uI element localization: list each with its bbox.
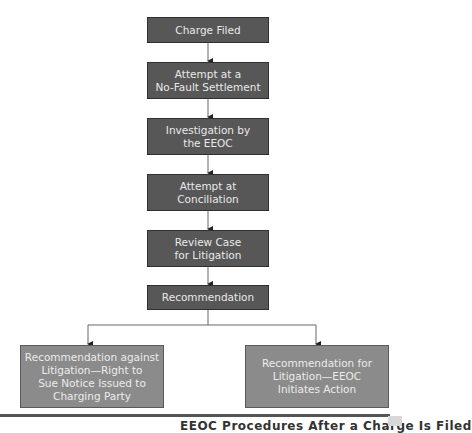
page-corner-shade (388, 416, 402, 426)
step-label: Attempt at Conciliation (177, 180, 238, 206)
step-label: Attempt at a No-Fault Settlement (156, 68, 261, 94)
step-conciliation: Attempt at Conciliation (147, 174, 269, 211)
step-no-fault-settlement: Attempt at a No-Fault Settlement (147, 62, 269, 99)
outcome-label: Recommendation against Litigation—Right … (25, 351, 159, 403)
step-charge-filed: Charge Filed (147, 17, 269, 43)
outcome-label: Recommendation for Litigation—EEOC Initi… (262, 357, 372, 396)
step-label: Charge Filed (175, 24, 240, 37)
step-recommendation: Recommendation (147, 285, 269, 310)
step-label: Review Case for Litigation (175, 236, 242, 262)
step-label: Recommendation (162, 291, 254, 304)
step-review-case: Review Case for Litigation (147, 230, 269, 267)
figure-caption: EEOC Procedures After a Charge Is Filed (180, 419, 472, 433)
step-label: Investigation by the EEOC (166, 124, 250, 150)
outcome-against-litigation: Recommendation against Litigation—Right … (20, 345, 164, 408)
outcome-for-litigation: Recommendation for Litigation—EEOC Initi… (245, 345, 389, 408)
step-investigation: Investigation by the EEOC (147, 118, 269, 155)
bottom-rule (0, 414, 390, 417)
